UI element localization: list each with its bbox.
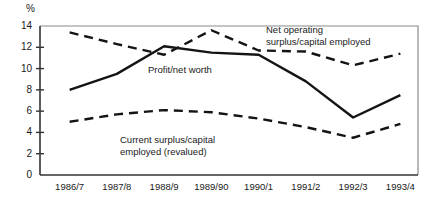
annotation-current-surplus: Current surplus/capitalemployed (revalue… xyxy=(120,134,215,157)
annotation-line-1: Net operating xyxy=(266,24,371,36)
annotation-line-2: employed (revalued) xyxy=(120,146,215,158)
line-chart: % 02468101214 1986/71987/81988/91989/901… xyxy=(0,0,430,213)
annotation-line-2: surplus/capital employed xyxy=(266,36,371,48)
series-line-1 xyxy=(70,46,401,117)
annotation-net-operating: Net operatingsurplus/capital employed xyxy=(266,24,371,47)
annotation-line-1: Current surplus/capital xyxy=(120,134,215,146)
annotation-line-1: Profit/net worth xyxy=(148,64,212,76)
annotation-profit-net-worth: Profit/net worth xyxy=(148,64,212,76)
plot-frame xyxy=(40,26,418,175)
